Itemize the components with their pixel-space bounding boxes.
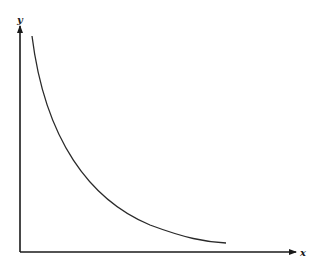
curve-line <box>32 36 226 243</box>
x-axis-label: x <box>299 247 307 258</box>
chart: y x <box>0 0 322 271</box>
y-axis-label: y <box>16 14 24 25</box>
